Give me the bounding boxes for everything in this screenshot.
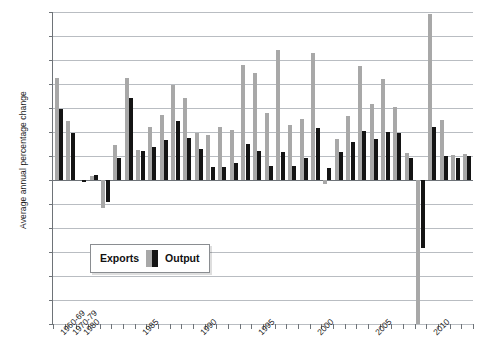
bar-output-1991 — [211, 167, 215, 180]
bar-output-2012 — [456, 158, 460, 180]
x-tick-30 — [403, 324, 404, 329]
legend-swatches — [146, 250, 158, 267]
bar-output-1960-69 — [59, 109, 63, 180]
bar-exports-2004 — [358, 66, 362, 180]
bar-exports-2011 — [440, 120, 444, 180]
bar-output-1988 — [176, 121, 180, 180]
x-tick-11 — [181, 324, 182, 329]
bar-output-1997 — [281, 152, 285, 180]
bar-output-1986 — [152, 147, 156, 180]
bar-chart: Average annual percentage change 1412108… — [0, 0, 480, 354]
bar-output-1984 — [129, 98, 133, 180]
bar-output-2006 — [386, 132, 390, 180]
bar-exports-1990 — [195, 133, 199, 180]
bar-output-1993 — [234, 163, 238, 180]
bar-exports-1960-69 — [55, 78, 59, 180]
bar-output-1989 — [187, 138, 191, 180]
x-tick-0 — [53, 324, 54, 329]
bar-exports-2001 — [323, 180, 327, 184]
x-tick-36 — [473, 324, 474, 329]
bar-exports-1985 — [136, 150, 140, 180]
x-tick-35 — [461, 324, 462, 329]
bar-output-1992 — [222, 167, 226, 180]
bar-exports-1982 — [101, 180, 105, 208]
x-tick-6 — [123, 324, 124, 329]
x-tick-26 — [356, 324, 357, 329]
bar-exports-1989 — [183, 98, 187, 180]
bar-series-container — [53, 12, 473, 324]
bar-exports-2002 — [335, 139, 339, 180]
bar-output-1996 — [269, 166, 273, 180]
bar-exports-1983 — [113, 145, 117, 180]
bar-output-1994 — [246, 144, 250, 180]
x-tick-21 — [298, 324, 299, 329]
bar-exports-2012 — [451, 155, 455, 180]
bar-output-2009 — [421, 180, 425, 248]
x-tick-22 — [310, 324, 311, 329]
bar-exports-1998 — [288, 125, 292, 180]
bar-output-2010 — [432, 127, 436, 180]
bar-output-2002 — [339, 152, 343, 180]
x-tick-7 — [135, 324, 136, 329]
bar-output-1983 — [117, 158, 121, 180]
plot-area: 14121086420–2–4–6–8–10–12 1960-691970-79… — [53, 12, 473, 324]
bar-exports-1993 — [230, 130, 234, 180]
chart-legend: Exports Output — [90, 244, 210, 273]
bar-output-1995 — [257, 151, 261, 180]
bar-exports-2000 — [311, 53, 315, 180]
bar-output-1980 — [82, 180, 86, 182]
bar-exports-2010 — [428, 14, 432, 180]
bar-exports-1995 — [253, 73, 257, 180]
bar-exports-1988 — [171, 85, 175, 180]
bar-exports-2006 — [381, 79, 385, 180]
bar-output-2013 — [467, 156, 471, 180]
legend-swatch-output — [152, 250, 158, 267]
x-tick-27 — [368, 324, 369, 329]
bar-exports-2013 — [463, 154, 467, 180]
bar-exports-1997 — [276, 50, 280, 180]
bar-exports-2009 — [416, 180, 420, 324]
x-tick-20 — [286, 324, 287, 329]
bar-output-1990 — [199, 149, 203, 180]
bar-output-1982 — [106, 180, 110, 202]
bar-output-1987 — [164, 140, 168, 180]
bar-exports-1992 — [218, 127, 222, 180]
bar-output-2008 — [409, 158, 413, 180]
bar-exports-2005 — [370, 104, 374, 180]
x-tick-10 — [170, 324, 171, 329]
bar-output-2001 — [327, 168, 331, 180]
x-tick-16 — [240, 324, 241, 329]
bar-output-1985 — [141, 151, 145, 180]
bar-output-2004 — [362, 131, 366, 180]
bar-exports-1984 — [125, 78, 129, 180]
bar-exports-1994 — [241, 65, 245, 180]
x-tick-12 — [193, 324, 194, 329]
bar-output-2005 — [374, 139, 378, 180]
x-tick-25 — [345, 324, 346, 329]
bar-exports-1986 — [148, 127, 152, 180]
bar-exports-1991 — [206, 135, 210, 180]
bar-output-2007 — [397, 133, 401, 180]
legend-label-exports: Exports — [100, 253, 139, 264]
bar-exports-1970-79 — [66, 121, 70, 180]
bar-exports-1987 — [160, 115, 164, 180]
bar-output-2011 — [444, 156, 448, 180]
x-tick-31 — [415, 324, 416, 329]
bar-output-2000 — [316, 128, 320, 180]
bar-output-1970-79 — [71, 133, 75, 180]
bar-output-2003 — [351, 142, 355, 180]
bar-exports-2007 — [393, 107, 397, 180]
bar-exports-1996 — [265, 113, 269, 180]
bar-exports-2003 — [346, 116, 350, 180]
bar-output-1999 — [304, 158, 308, 180]
bar-exports-2008 — [405, 153, 409, 180]
bar-output-1981 — [94, 175, 98, 180]
x-tick-15 — [228, 324, 229, 329]
x-tick-5 — [111, 324, 112, 329]
x-tick-17 — [251, 324, 252, 329]
bar-exports-1981 — [90, 176, 94, 180]
bar-exports-1999 — [300, 119, 304, 180]
y-axis-title: Average annual percentage change — [18, 55, 28, 265]
x-tick-32 — [426, 324, 427, 329]
legend-label-output: Output — [165, 253, 199, 264]
